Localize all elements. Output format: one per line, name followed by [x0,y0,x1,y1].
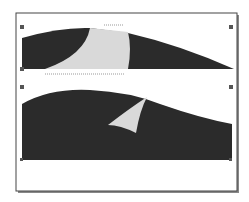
handle-mid-left[interactable] [20,85,24,89]
handle-bottom-shape-right[interactable] [229,158,232,161]
handle-bottom-shape-left[interactable] [20,158,23,161]
handle-top-left[interactable] [20,25,24,29]
handle-top-right[interactable] [229,25,233,29]
handle-bottom-left[interactable] [20,67,24,71]
diagram-canvas [0,0,249,202]
handle-bottom-right[interactable] [229,85,233,89]
